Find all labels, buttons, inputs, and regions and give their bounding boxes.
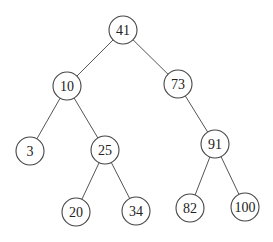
node-label: 20 bbox=[69, 205, 83, 220]
edge-10-3 bbox=[37, 98, 60, 139]
tree-node-100: 100 bbox=[231, 193, 259, 221]
edge-41-73 bbox=[133, 40, 168, 74]
tree-svg: 41107332591203482100 bbox=[0, 0, 273, 242]
tree-node-82: 82 bbox=[176, 194, 204, 222]
tree-node-20: 20 bbox=[62, 198, 90, 226]
node-label: 25 bbox=[98, 143, 112, 158]
node-label: 41 bbox=[116, 23, 130, 38]
node-label: 10 bbox=[60, 79, 74, 94]
node-label: 34 bbox=[129, 204, 143, 219]
edge-25-34 bbox=[111, 163, 129, 199]
node-label: 91 bbox=[208, 137, 222, 152]
tree-node-3: 3 bbox=[16, 137, 44, 165]
edge-41-10 bbox=[77, 40, 113, 76]
edge-91-100 bbox=[221, 157, 239, 195]
tree-node-10: 10 bbox=[53, 72, 81, 100]
edge-73-91 bbox=[185, 96, 207, 132]
edges-group bbox=[37, 40, 239, 200]
tree-node-41: 41 bbox=[109, 16, 137, 44]
nodes-group: 41107332591203482100 bbox=[16, 16, 259, 226]
tree-node-25: 25 bbox=[91, 136, 119, 164]
node-label: 82 bbox=[183, 201, 197, 216]
node-label: 100 bbox=[235, 200, 256, 215]
node-label: 73 bbox=[171, 77, 185, 92]
tree-node-91: 91 bbox=[201, 130, 229, 158]
tree-diagram: 41107332591203482100 bbox=[0, 0, 273, 242]
tree-node-34: 34 bbox=[122, 197, 150, 225]
edge-25-20 bbox=[82, 163, 99, 200]
tree-node-73: 73 bbox=[164, 70, 192, 98]
edge-10-25 bbox=[74, 98, 98, 138]
node-label: 3 bbox=[27, 144, 34, 159]
edge-91-82 bbox=[195, 157, 210, 195]
